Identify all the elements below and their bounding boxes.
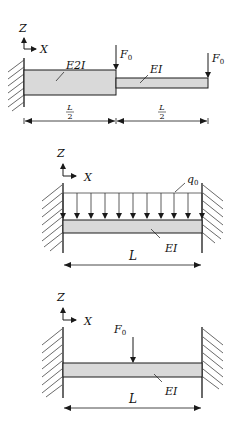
- axis-z-label: Z: [56, 291, 65, 304]
- axis-triad-3: Z X: [56, 291, 93, 328]
- axis-z-label: Z: [18, 22, 27, 35]
- svg-text:2: 2: [67, 112, 72, 121]
- force-arrow-1: F0: [116, 45, 132, 69]
- svg-text:F0: F0: [211, 52, 224, 66]
- axis-triad-1: Z X: [18, 22, 49, 56]
- figure-3-fixed-fixed-point-load: Z X: [42, 291, 223, 408]
- fixed-wall-right-2: [202, 183, 223, 253]
- fixed-wall-left-2: [42, 183, 63, 253]
- svg-text:L: L: [66, 103, 72, 112]
- beam-ei: [63, 363, 202, 377]
- svg-text:L: L: [128, 249, 137, 263]
- beam-label-ei: EI: [164, 385, 178, 398]
- segment-label-ei: EI: [149, 63, 163, 76]
- segment-label-e2i: E2I: [65, 59, 86, 72]
- axis-x-label: X: [39, 43, 49, 56]
- fixed-wall-left-1: [8, 58, 24, 111]
- beam-segment-e2i: [24, 70, 116, 95]
- beam-diagrams: Z X E2I EI F0: [0, 0, 240, 425]
- figure-2-fixed-fixed-distributed: Z X: [42, 147, 223, 265]
- figure-1-stepped-cantilever: Z X E2I EI F0: [8, 22, 224, 124]
- svg-text:F0: F0: [119, 48, 132, 62]
- axis-triad-2: Z X: [56, 147, 93, 184]
- fixed-wall-right-3: [202, 327, 223, 398]
- dimension-half-1: L 2: [24, 103, 115, 124]
- axis-z-label: Z: [56, 147, 65, 160]
- axis-x-label: X: [83, 171, 93, 184]
- beam-ei: [63, 220, 202, 233]
- svg-text:2: 2: [159, 112, 164, 121]
- beam-segment-ei: [116, 78, 208, 88]
- force-arrow-2: F0: [208, 52, 224, 77]
- axis-x-label: X: [83, 315, 93, 328]
- dimension-half-2: L 2: [116, 103, 208, 124]
- fixed-wall-left-3: [42, 327, 63, 398]
- load-label-q0: q0: [187, 173, 199, 187]
- svg-text:L: L: [158, 103, 164, 112]
- svg-text:L: L: [128, 392, 137, 406]
- svg-text:F0: F0: [113, 323, 126, 337]
- dimension-length-2: L: [64, 249, 201, 265]
- beam-label-ei: EI: [164, 242, 178, 255]
- dimension-length-3: L: [64, 392, 201, 408]
- force-arrow-midspan: F0: [113, 323, 133, 362]
